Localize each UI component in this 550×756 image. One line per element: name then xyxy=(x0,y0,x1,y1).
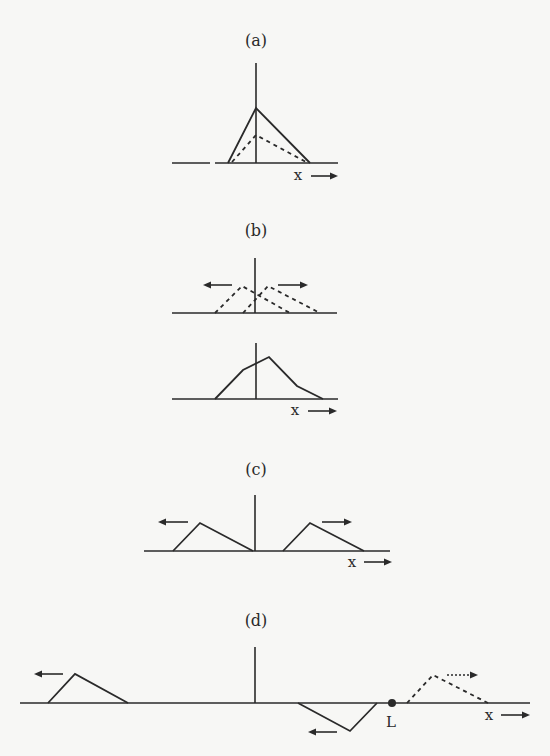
arrowhead-icon xyxy=(522,712,530,719)
panel-label: (a) xyxy=(245,31,267,50)
panel-b-bottom: x xyxy=(172,343,338,419)
pulse-solid xyxy=(283,523,364,551)
panel-a: (a)x xyxy=(172,31,338,184)
arrowhead-icon xyxy=(203,282,211,289)
arrowhead-icon xyxy=(300,282,308,289)
panel-label: (b) xyxy=(245,221,268,240)
arrowhead-icon xyxy=(158,519,166,526)
x-axis-label: x xyxy=(294,166,303,184)
x-axis-label: x xyxy=(291,401,300,419)
x-axis-label: x xyxy=(485,706,494,724)
panel-b-top: (b) xyxy=(172,221,337,313)
arrowhead-icon xyxy=(330,173,338,180)
x-axis-label: x xyxy=(348,553,357,571)
pulse-solid xyxy=(298,703,377,731)
arrowhead-icon xyxy=(329,408,337,415)
arrowhead-icon xyxy=(384,559,392,566)
arrowhead-icon xyxy=(344,519,352,526)
boundary-point xyxy=(388,699,396,707)
diagram-panels: (a)x(b)x(c)x(d)Lx xyxy=(20,31,530,736)
arrowhead-icon xyxy=(470,672,478,679)
pulse-solid xyxy=(48,674,128,703)
wave-pulse-diagram: (a)x(b)x(c)x(d)Lx xyxy=(0,0,550,756)
panel-d: (d)Lx xyxy=(20,611,530,736)
pulse-solid xyxy=(173,523,253,551)
panel-c: (c)x xyxy=(144,460,392,571)
arrowhead-icon xyxy=(308,729,316,736)
panel-label: (c) xyxy=(245,460,266,479)
pulse-dashed xyxy=(215,286,290,313)
pulse-solid xyxy=(215,357,323,399)
arrowhead-icon xyxy=(34,671,42,678)
panel-label: (d) xyxy=(245,611,268,630)
pulse-dashed xyxy=(407,675,488,703)
pulse-solid xyxy=(228,108,310,163)
boundary-point-label: L xyxy=(386,713,396,731)
